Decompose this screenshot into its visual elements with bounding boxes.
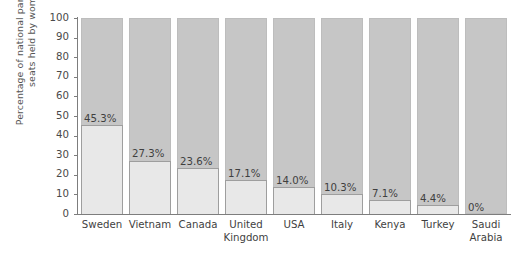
bar-segment-women [417, 205, 459, 214]
bar-value-label: 0% [468, 202, 484, 213]
bar-segment-remainder [465, 18, 507, 214]
x-axis-category-label: Sweden [78, 219, 126, 232]
y-tick-label: 20 [56, 169, 69, 179]
y-tick-mark [74, 57, 78, 58]
x-axis-line [77, 214, 511, 215]
y-tick-label: 50 [56, 111, 69, 121]
bar-value-label: 4.4% [420, 193, 446, 204]
y-tick-label: 40 [56, 130, 69, 140]
bar-column [225, 18, 267, 214]
plot-area: 45.3%27.3%23.6%17.1%14.0%10.3%7.1%4.4%0% [78, 18, 510, 214]
y-tick-label: 0 [63, 209, 69, 219]
bar-segment-women [273, 187, 315, 214]
y-tick-mark [74, 116, 78, 117]
y-tick-mark [74, 96, 78, 97]
y-tick-label: 80 [56, 52, 69, 62]
bar-column [465, 18, 507, 214]
y-tick-label: 70 [56, 71, 69, 81]
y-tick-mark [74, 214, 78, 215]
y-tick-mark [74, 175, 78, 176]
x-axis-category-label: USA [270, 219, 318, 232]
y-tick-mark [74, 18, 78, 19]
x-axis-category-label: Canada [174, 219, 222, 232]
bar-column [177, 18, 219, 214]
y-tick-label: 30 [56, 150, 69, 160]
bar-value-label: 10.3% [324, 182, 356, 193]
bar-column [369, 18, 411, 214]
bar-segment-remainder [417, 18, 459, 214]
bar-value-label: 23.6% [180, 156, 212, 167]
y-tick-mark [74, 155, 78, 156]
bar-segment-women [369, 200, 411, 214]
x-axis-category-label: Saudi Arabia [462, 219, 510, 244]
y-tick-mark [74, 194, 78, 195]
y-tick-label: 10 [56, 189, 69, 199]
bar-segment-women [225, 180, 267, 214]
bar-segment-remainder [369, 18, 411, 214]
bar-value-label: 7.1% [372, 188, 398, 199]
y-tick-label: 60 [56, 91, 69, 101]
x-axis-category-label: Turkey [414, 219, 462, 232]
x-axis-category-label: Italy [318, 219, 366, 232]
y-tick-label: 100 [50, 13, 69, 23]
x-axis-category-label: United Kingdom [222, 219, 270, 244]
bar-chart: Percentage of national parliamentary sea… [0, 0, 527, 257]
x-axis-category-label: Kenya [366, 219, 414, 232]
y-tick-mark [74, 136, 78, 137]
x-axis-category-label: Vietnam [126, 219, 174, 232]
bar-segment-women [177, 168, 219, 214]
bar-column [129, 18, 171, 214]
bar-segment-women [321, 194, 363, 214]
y-axis-tick-labels: 1009080706050403020100 [0, 0, 78, 257]
bar-segment-women [129, 161, 171, 215]
y-tick-mark [74, 38, 78, 39]
bar-column [417, 18, 459, 214]
bar-value-label: 17.1% [228, 168, 260, 179]
bar-value-label: 45.3% [84, 113, 116, 124]
bar-value-label: 14.0% [276, 175, 308, 186]
bar-segment-women [81, 125, 123, 214]
bar-value-label: 27.3% [132, 148, 164, 159]
y-tick-label: 90 [56, 32, 69, 42]
y-tick-mark [74, 77, 78, 78]
